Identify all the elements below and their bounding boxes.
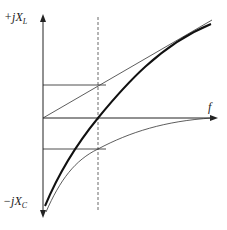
net-reactance-curve	[45, 24, 211, 206]
y-axis-bottom-label: −jXC	[3, 194, 27, 210]
inductive-reactance-line	[43, 20, 212, 118]
diagram-canvas	[0, 0, 227, 230]
y-axis-top-label: +jXL	[4, 10, 27, 26]
reactance-diagram: +jXL −jXC f	[0, 0, 227, 230]
x-axis-label: f	[208, 100, 211, 115]
capacitive-reactance-curve	[46, 118, 212, 212]
